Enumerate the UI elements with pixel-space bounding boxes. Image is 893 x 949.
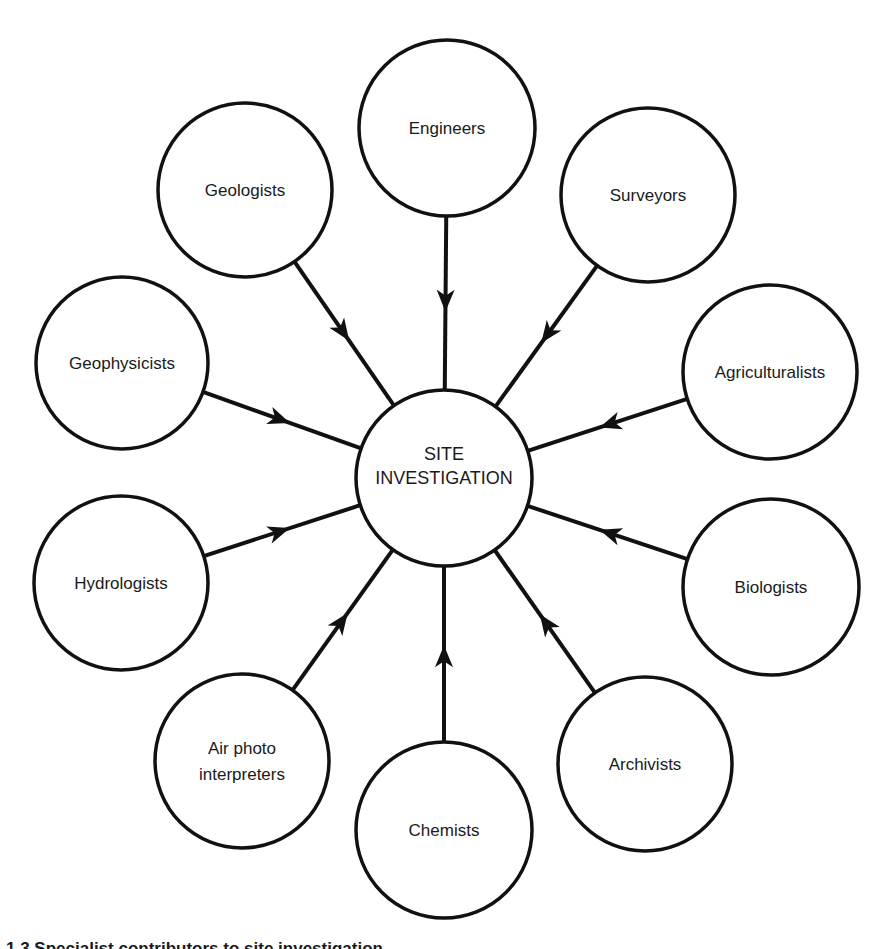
arrowhead-icon — [540, 614, 560, 637]
node-label: Biologists — [735, 578, 808, 597]
node-circle — [155, 674, 329, 848]
arrow-geologists-to-center — [294, 262, 394, 406]
node-label: Air photo — [208, 739, 276, 758]
arrow-engineers-to-center — [437, 216, 455, 390]
node-label: Geophysicists — [69, 354, 175, 373]
node-archivists: Archivists — [558, 677, 732, 851]
arrowhead-icon — [329, 318, 349, 341]
node-geophysicists: Geophysicists — [36, 277, 208, 449]
node-label: interpreters — [199, 765, 285, 784]
arrow-air-photo-interpreters-to-center — [293, 550, 393, 691]
node-agriculturalists: Agriculturalists — [683, 285, 857, 459]
figure-caption: 1.3 Specialist contributors to site inve… — [6, 938, 383, 949]
node-geologists: Geologists — [158, 103, 332, 277]
node-label: Surveyors — [610, 186, 687, 205]
node-engineers: Engineers — [359, 40, 535, 216]
node-label: Engineers — [409, 119, 486, 138]
node-chemists: Chemists — [356, 742, 532, 918]
arrow-chemists-to-center — [435, 566, 453, 742]
node-label: SITE — [424, 444, 464, 464]
arrow-surveyors-to-center — [495, 266, 597, 407]
node-hydrologists: Hydrologists — [34, 496, 208, 670]
node-surveyors: Surveyors — [561, 108, 735, 282]
arrowhead-icon — [541, 320, 561, 343]
arrow-biologists-to-center — [527, 506, 687, 559]
node-label: INVESTIGATION — [375, 468, 513, 488]
arrow-geophysicists-to-center — [203, 392, 361, 448]
node-label: Hydrologists — [74, 574, 168, 593]
node-label: Agriculturalists — [715, 363, 826, 382]
site-investigation-diagram: EngineersSurveyorsAgriculturalistsBiolog… — [0, 0, 893, 949]
node-air-photo-interpreters: Air photointerpreters — [155, 674, 329, 848]
arrow-hydrologists-to-center — [204, 505, 361, 556]
center-node-site-investigation: SITEINVESTIGATION — [356, 390, 532, 566]
node-label: Archivists — [609, 755, 682, 774]
arrowhead-icon — [328, 613, 348, 636]
arrow-agriculturalists-to-center — [528, 399, 688, 451]
node-label: Chemists — [409, 821, 480, 840]
node-label: Geologists — [205, 181, 285, 200]
arrow-archivists-to-center — [495, 550, 595, 693]
node-biologists: Biologists — [683, 499, 859, 675]
